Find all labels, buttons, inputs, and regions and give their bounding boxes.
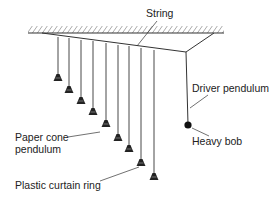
heavy-bob-label: Heavy bob bbox=[192, 135, 242, 147]
paper-cone-pendulum bbox=[77, 40, 86, 104]
driver-pendulum-label: Driver pendulum bbox=[192, 82, 269, 94]
string bbox=[42, 33, 214, 52]
paper-cone-icon bbox=[102, 120, 111, 127]
paper-cone-icon bbox=[65, 86, 74, 93]
paper-cone-pendulum bbox=[54, 37, 63, 81]
paper-cone-pendulums bbox=[54, 37, 159, 180]
coupled-pendulums-diagram: String Driver pendulum Heavy bob Paper c… bbox=[0, 0, 274, 199]
paper-cone-pendulum bbox=[65, 38, 74, 93]
paper-cone-pendulum bbox=[137, 48, 146, 166]
paper-cone-icon bbox=[125, 145, 134, 152]
paper-cone-pendulum bbox=[150, 50, 159, 180]
paper-cone-pendulum bbox=[125, 46, 134, 152]
paper-cone-label-line2: pendulum bbox=[15, 143, 61, 155]
paper-cone-icon bbox=[77, 97, 86, 104]
paper-cone-icon bbox=[89, 108, 98, 115]
driver-pendulum bbox=[184, 52, 191, 129]
plastic-ring-leader bbox=[100, 167, 139, 181]
paper-cone-icon bbox=[137, 159, 146, 166]
paper-cone-pendulum bbox=[89, 41, 98, 115]
paper-cone-leader bbox=[68, 132, 100, 137]
heavy-bob-icon bbox=[184, 121, 191, 128]
paper-cone-pendulum bbox=[114, 45, 123, 141]
string-label: String bbox=[146, 7, 174, 19]
ceiling-support bbox=[28, 26, 224, 33]
paper-cone-pendulum bbox=[102, 43, 111, 127]
plastic-ring-label: Plastic curtain ring bbox=[15, 179, 101, 191]
paper-cone-label-line1: Paper cone bbox=[15, 131, 69, 143]
driver-pendulum-leader bbox=[190, 95, 208, 108]
paper-cone-icon bbox=[114, 134, 123, 141]
paper-cone-icon bbox=[54, 74, 63, 81]
paper-cone-icon bbox=[150, 173, 159, 180]
